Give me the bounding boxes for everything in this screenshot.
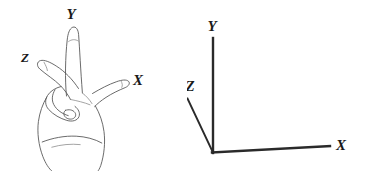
thumb-web-crease — [83, 93, 92, 103]
axis-label-y: Y — [207, 18, 218, 34]
middle-finger-outline — [37, 60, 78, 99]
axis-label-z: Z — [187, 78, 195, 94]
hand-label-y: Y — [66, 6, 77, 22]
axes-diagram-panel: Y Z X — [187, 0, 374, 171]
index-finger-crease — [69, 40, 79, 42]
thumb-outline — [93, 80, 130, 107]
hand-sketch-svg: Y Z X — [0, 0, 187, 171]
middle-finger-knuckle-crease — [44, 62, 47, 70]
axes-svg: Y Z X — [187, 0, 374, 171]
palm-left-edge — [38, 97, 52, 171]
knuckle-crease-upper — [70, 99, 90, 104]
curled-fingers-outline — [46, 87, 80, 122]
hand-diagram-panel: Y Z X — [0, 0, 187, 171]
figure-root: Y Z X Y Z X — [0, 0, 374, 171]
index-finger-outline — [65, 27, 82, 96]
palm-inner-crease — [52, 144, 80, 147]
palm-bottom-crease — [42, 136, 102, 143]
hand-label-x: X — [132, 72, 144, 88]
x-axis-line — [212, 146, 330, 153]
palm-right-edge — [95, 106, 104, 171]
thumb-tip-crease — [121, 81, 122, 87]
z-axis-line — [188, 99, 214, 153]
axis-label-x: X — [335, 137, 347, 153]
hand-label-z: Z — [20, 50, 29, 65]
